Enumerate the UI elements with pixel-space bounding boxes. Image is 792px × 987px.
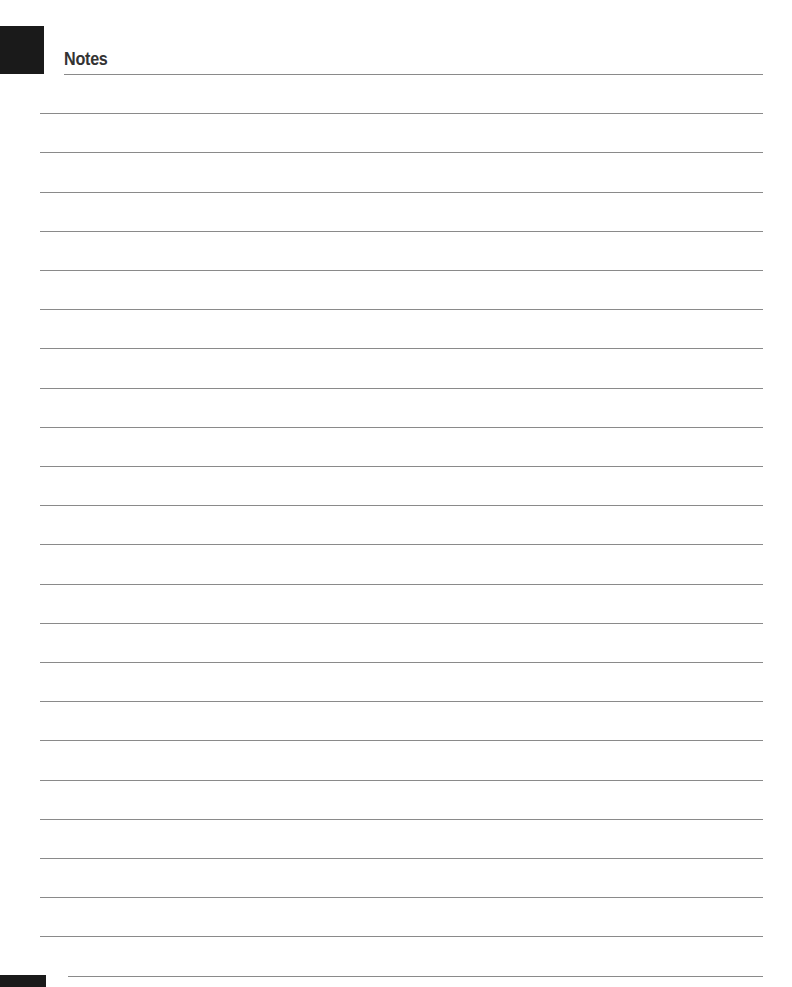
section-tab-top (0, 26, 44, 74)
ruled-line (40, 623, 763, 624)
ruled-line (40, 388, 763, 389)
ruled-line (40, 780, 763, 781)
ruled-line (40, 819, 763, 820)
page-title: Notes (64, 48, 108, 70)
ruled-line (40, 701, 763, 702)
ruled-line (40, 584, 763, 585)
ruled-line (40, 936, 763, 937)
ruled-line (40, 270, 763, 271)
ruled-line (40, 427, 763, 428)
ruled-line (40, 309, 763, 310)
ruled-line (40, 113, 763, 114)
ruled-line (40, 858, 763, 859)
ruled-line (40, 662, 763, 663)
ruled-line (40, 192, 763, 193)
ruled-line (40, 152, 763, 153)
ruled-line (40, 544, 763, 545)
ruled-line (40, 231, 763, 232)
ruled-line (40, 348, 763, 349)
ruled-line (40, 740, 763, 741)
ruled-line (68, 976, 763, 977)
section-tab-bottom (0, 975, 46, 987)
ruled-line (40, 897, 763, 898)
ruled-line (40, 505, 763, 506)
ruled-line (64, 74, 763, 75)
ruled-line (40, 466, 763, 467)
